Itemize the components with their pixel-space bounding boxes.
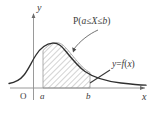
shaded-region: [42, 40, 92, 89]
probability-density-figure: y x O a b P(a≤X≤b) y=f(x): [0, 0, 153, 123]
probability-leader-arrow: [72, 30, 98, 53]
equation-x: x: [127, 59, 131, 69]
equation-f: f: [122, 59, 125, 69]
probability-annotation: P(a≤X≤b): [73, 17, 110, 27]
origin-label: O: [20, 92, 27, 101]
probability-upper-bound: b: [102, 16, 107, 26]
x-axis-label: x: [142, 92, 146, 102]
tick-label-a: a: [40, 92, 45, 101]
y-axis-label: y: [37, 3, 41, 13]
tick-label-b: b: [86, 92, 91, 101]
curve-equation-annotation: y=f(x): [112, 60, 135, 70]
